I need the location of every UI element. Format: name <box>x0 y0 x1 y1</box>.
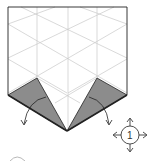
crease-grid <box>8 7 127 131</box>
rotate-symbol-label: 1 <box>127 130 133 141</box>
next-step-circle-partial <box>10 157 25 161</box>
left-folded-flap <box>8 78 67 131</box>
right-folded-flap <box>67 78 127 131</box>
origami-diagram: 1 <box>0 0 147 161</box>
